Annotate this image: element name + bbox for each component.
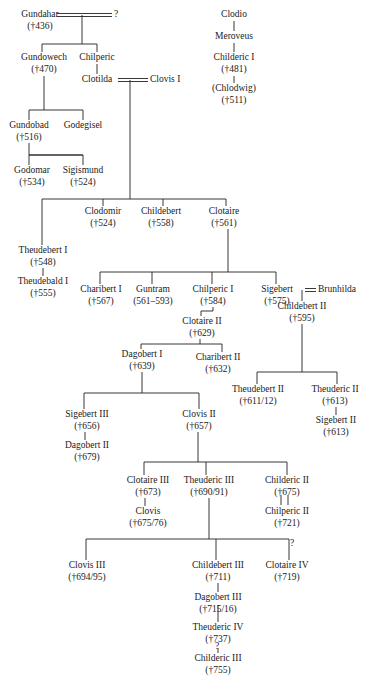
person-name: Clotaire II <box>182 316 221 328</box>
person-name: Clotilda <box>82 74 113 86</box>
person-dates: (†721) <box>265 518 309 530</box>
person-dates: (†657) <box>182 421 216 433</box>
person-dates: (†481) <box>214 64 255 76</box>
person-childebert3: Childebert III(†711) <box>192 560 244 583</box>
person-name: Clovis III <box>68 560 105 572</box>
person-godegisel: Godegisel <box>64 120 103 132</box>
person-dates: (†524) <box>85 218 121 230</box>
person-name: Childebert III <box>192 560 244 572</box>
person-dates: (†561) <box>209 218 240 230</box>
person-theudebald1: Theudebald I(†555) <box>18 276 68 299</box>
person-name: Charibert II <box>196 352 241 364</box>
person-dates: (†613) <box>311 396 358 408</box>
person-meroveus: Meroveus <box>215 31 253 43</box>
person-clotilda: Clotilda <box>82 74 113 86</box>
person-name: Gundowech <box>21 52 67 64</box>
person-dates: (†584) <box>193 296 234 308</box>
person-gundowech: Gundowech(†470) <box>21 52 67 75</box>
person-name: Theuderic II <box>311 384 358 396</box>
person-dates: (†675) <box>265 487 309 499</box>
person-clotaire4: Clotaire IV(†719) <box>265 560 308 583</box>
person-clovis: Clovis(†675/76) <box>129 506 166 529</box>
person-dates: (†511) <box>212 95 256 107</box>
person-name: Clovis <box>129 506 166 518</box>
person-name: Godomar <box>14 165 50 177</box>
person-name: Childeric III <box>194 653 241 665</box>
person-dates: (†715/16) <box>194 604 241 616</box>
person-dates: (†436) <box>21 21 58 33</box>
person-name: Clotaire IV <box>265 560 308 572</box>
person-dates: (†524) <box>63 177 104 189</box>
person-dates: (†558) <box>141 218 181 230</box>
person-dates: (†755) <box>194 665 241 675</box>
person-name: Meroveus <box>215 31 253 43</box>
person-name: Chilperic <box>79 52 114 64</box>
person-clodio: Clodio <box>221 9 247 21</box>
person-name: Sigismund <box>63 165 104 177</box>
person-dagobert3: Dagobert III(†715/16) <box>194 592 241 615</box>
person-dates: (†613) <box>316 427 356 439</box>
person-gundobad: Gundobad(†516) <box>9 120 49 143</box>
person-name: Clodio <box>221 9 247 21</box>
person-theuderic3: Theuderic III(†690/91) <box>184 475 234 498</box>
person-name: Gundahar <box>21 9 58 21</box>
person-dates: (†595) <box>278 313 327 325</box>
person-dagobert1: Dagobert I(†639) <box>122 349 163 372</box>
person-dates: (†690/91) <box>184 487 234 499</box>
person-name: Theudebert II <box>232 384 284 396</box>
person-guntram: Guntram(561–593) <box>133 284 173 307</box>
person-clotaire2: Clotaire II(†629) <box>182 316 221 339</box>
person-clovis1: Clovis I <box>150 74 180 86</box>
genealogy-diagram: Gundahar(†436)ClodioMeroveusChilderic I(… <box>0 0 367 675</box>
person-childeric3: Childeric III(†755) <box>194 653 241 675</box>
person-clodomir: Clodomir(†524) <box>85 206 121 229</box>
person-godomar: Godomar(†534) <box>14 165 50 188</box>
person-dates: (†719) <box>265 572 308 584</box>
person-name: Charibert I <box>80 284 121 296</box>
person-dates: (561–593) <box>133 296 173 308</box>
person-chilperic2: Chilperic II(†721) <box>265 506 309 529</box>
person-sigebert2: Sigebert II(†613) <box>316 415 356 438</box>
person-name: Chilperic I <box>193 284 234 296</box>
person-dates: (†656) <box>65 421 109 433</box>
person-name: Theuderic III <box>184 475 234 487</box>
person-clotaire3: Clotaire III(†673) <box>127 475 169 498</box>
person-dates: (†555) <box>18 288 68 300</box>
person-name: Gundobad <box>9 120 49 132</box>
person-childebert: Childebert(†558) <box>141 206 181 229</box>
person-clotaire: Clotaire(†561) <box>209 206 240 229</box>
person-dates: (†675/76) <box>129 518 166 530</box>
person-chilperic1: Chilperic I(†584) <box>193 284 234 307</box>
person-theudebert1: Theudebert I(†548) <box>19 245 68 268</box>
person-dates: (†534) <box>14 177 50 189</box>
person-name: Guntram <box>133 284 173 296</box>
person-childeric1: Childeric I(†481) <box>214 52 255 75</box>
person-clovis2: Clovis II(†657) <box>182 409 216 432</box>
person-name: Theuderic IV <box>193 622 244 634</box>
person-chlodwig: (Chlodwig)(†511) <box>212 83 256 106</box>
person-dates: (†694/95) <box>68 572 105 584</box>
person-dates: (†629) <box>182 328 221 340</box>
person-dates: (†567) <box>80 296 121 308</box>
person-name: Childebert <box>141 206 181 218</box>
person-theudebert2: Theudebert II(†611/12) <box>232 384 284 407</box>
person-theuderic2: Theuderic II(†613) <box>311 384 358 407</box>
person-childeric2: Childeric II(†675) <box>265 475 309 498</box>
person-dates: (†632) <box>196 364 241 376</box>
person-name: Dagobert I <box>122 349 163 361</box>
person-name: Childebert II <box>278 301 327 313</box>
person-name: Childeric II <box>265 475 309 487</box>
person-name: Godegisel <box>64 120 103 132</box>
person-name: Dagobert II <box>65 440 109 452</box>
person-name: Clovis II <box>182 409 216 421</box>
uncertain-mark: ? <box>290 538 294 550</box>
person-name: Clotaire III <box>127 475 169 487</box>
person-charibert1: Charibert I(†567) <box>80 284 121 307</box>
person-name: Theudebert I <box>19 245 68 257</box>
person-name: Clotaire <box>209 206 240 218</box>
person-gundahar: Gundahar(†436) <box>21 9 58 32</box>
person-dates: (†548) <box>19 257 68 269</box>
person-name: Sigebert II <box>316 415 356 427</box>
person-childebert2: Childebert II(†595) <box>278 301 327 324</box>
person-sigebert3: Sigebert III(†656) <box>65 409 109 432</box>
